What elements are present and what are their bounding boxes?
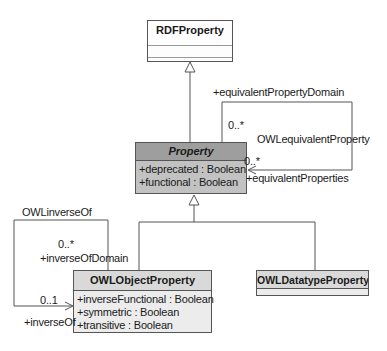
compartment-divider (148, 57, 232, 58)
class-owldatatypeproperty: OWLDatatypeProperty (256, 270, 369, 296)
generalization-triangle-icon (189, 195, 199, 205)
class-property: Property +deprecated : Boolean +function… (135, 142, 247, 194)
attribute: +deprecated : Boolean (139, 163, 243, 176)
association-role-label: +equivalentProperties (246, 172, 349, 184)
multiplicity-label: 0..* (228, 119, 244, 131)
compartment-divider (148, 45, 232, 46)
association-name-label: OWLinverseOf (22, 206, 92, 218)
class-property-name: Property (136, 143, 246, 161)
generalization-triangle-icon (185, 62, 195, 72)
multiplicity-label: 0..* (244, 155, 260, 167)
multiplicity-label: 0..1 (40, 294, 58, 306)
class-rdfproperty: RDFProperty (147, 20, 233, 62)
class-owlobjectproperty-attributes: +inverseFunctional : Boolean +symmetric … (74, 291, 211, 334)
association-role-label: +inverseOf (24, 316, 76, 328)
attribute: +transitive : Boolean (77, 319, 208, 332)
multiplicity-label: 0..* (58, 238, 74, 250)
association-role-label: +inverseOfDomain (40, 252, 128, 264)
class-rdfproperty-name: RDFProperty (148, 21, 232, 45)
association-name-label: OWLequivalentProperty (257, 133, 370, 145)
association-role-label: +equivalentPropertyDomain (213, 86, 344, 98)
class-property-attributes: +deprecated : Boolean +functional : Bool… (136, 161, 246, 191)
class-owlobjectproperty-name: OWLObjectProperty (74, 271, 211, 291)
attribute: +symmetric : Boolean (77, 306, 208, 319)
class-owldatatypeproperty-name: OWLDatatypeProperty (257, 271, 368, 289)
attribute: +functional : Boolean (139, 176, 243, 189)
class-owlobjectproperty: OWLObjectProperty +inverseFunctional : B… (73, 270, 212, 333)
uml-class-diagram: RDFProperty Property +deprecated : Boole… (0, 0, 387, 351)
attribute: +inverseFunctional : Boolean (77, 293, 208, 306)
